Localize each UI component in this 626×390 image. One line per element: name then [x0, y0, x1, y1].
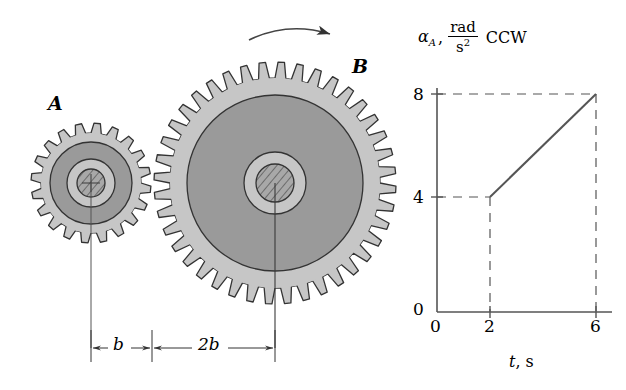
plot-ytick-label-0: 0 — [413, 299, 424, 319]
figure-canvas — [0, 0, 626, 390]
rotation-direction-arrow — [249, 29, 330, 40]
y-label-comma: , — [438, 28, 443, 47]
plot-x-axis-label: t, s — [509, 352, 534, 371]
plot-group — [431, 88, 612, 318]
plot-xtick-label-0: 0 — [430, 316, 441, 336]
dimension-label-b: b — [113, 334, 124, 354]
plot-y-axis-label: αA, rad s2 CCW — [418, 20, 527, 56]
alpha-symbol: αA — [418, 27, 436, 48]
plot-ytick-label-4: 4 — [413, 187, 424, 207]
gear-a-label: A — [48, 92, 63, 114]
gear-b-label: B — [352, 55, 368, 77]
plot-xtick-label-2: 2 — [484, 316, 495, 336]
unit-fraction: rad s2 — [448, 20, 478, 56]
dimension-label-2b: 2b — [198, 334, 220, 354]
gear-b — [154, 62, 396, 348]
plot-ytick-label-8: 8 — [413, 84, 424, 104]
rotation-sense-label: CCW — [486, 28, 527, 47]
plot-xtick-label-6: 6 — [590, 316, 601, 336]
unit-numerator: rad — [448, 20, 478, 35]
unit-denominator: s2 — [454, 38, 472, 55]
gear-a — [31, 123, 151, 348]
plot-series-alpha-a — [490, 94, 596, 197]
time-unit: , s — [515, 352, 533, 371]
figure-root: A B b 2b αA, rad s2 CCW 8 4 0 0 2 6 t, s — [0, 0, 626, 390]
